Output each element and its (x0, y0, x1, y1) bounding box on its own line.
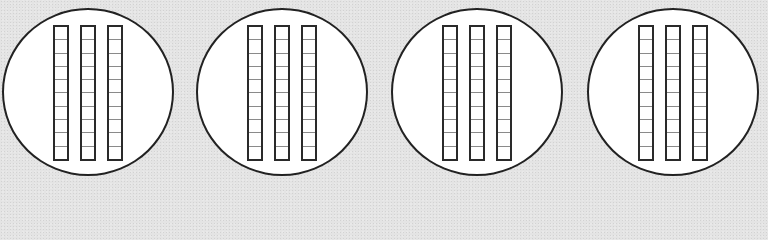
unit-cell (276, 40, 288, 53)
unit-cell (55, 40, 67, 53)
unit-cell (55, 54, 67, 67)
ten-rod (53, 25, 69, 161)
unit-cell (276, 147, 288, 159)
unit-cell (498, 93, 510, 106)
ten-rod (274, 25, 290, 161)
unit-cell (694, 54, 706, 67)
unit-cell (276, 120, 288, 133)
unit-cell (498, 40, 510, 53)
unit-cell (471, 67, 483, 80)
unit-cell (82, 93, 94, 106)
unit-cell (498, 107, 510, 120)
unit-cell (471, 133, 483, 146)
unit-cell (471, 120, 483, 133)
unit-cell (444, 40, 456, 53)
equal-groups-diagram: group 1group 2group 3group 4 (0, 0, 768, 186)
unit-cell (249, 107, 261, 120)
unit-cell (471, 147, 483, 159)
unit-cell (694, 67, 706, 80)
ten-rods-set (393, 25, 561, 161)
ten-rod (247, 25, 263, 161)
group-circle: group 2 (196, 8, 368, 176)
unit-cell (82, 80, 94, 93)
ten-rods-set (589, 25, 757, 161)
unit-cell (471, 40, 483, 53)
unit-cell (249, 133, 261, 146)
unit-cell (55, 67, 67, 80)
unit-cell (444, 133, 456, 146)
unit-cell (82, 107, 94, 120)
unit-cell (667, 40, 679, 53)
unit-cell (640, 133, 652, 146)
unit-cell (55, 120, 67, 133)
unit-cell (276, 67, 288, 80)
unit-cell (444, 27, 456, 40)
unit-cell (667, 67, 679, 80)
group-label: group 1 (4, 10, 5, 11)
unit-cell (444, 54, 456, 67)
group-label: group 3 (393, 10, 394, 11)
unit-cell (640, 120, 652, 133)
ten-rods-set (4, 25, 172, 161)
unit-cell (109, 27, 121, 40)
unit-cell (444, 147, 456, 159)
unit-cell (109, 40, 121, 53)
unit-cell (640, 27, 652, 40)
unit-cell (82, 147, 94, 159)
unit-cell (109, 54, 121, 67)
unit-cell (109, 93, 121, 106)
unit-cell (471, 80, 483, 93)
ten-rod (107, 25, 123, 161)
unit-cell (640, 80, 652, 93)
group-circle: group 3 (391, 8, 563, 176)
unit-cell (694, 120, 706, 133)
unit-cell (303, 133, 315, 146)
unit-cell (694, 27, 706, 40)
ten-rod (469, 25, 485, 161)
unit-cell (471, 54, 483, 67)
unit-cell (444, 93, 456, 106)
unit-cell (303, 80, 315, 93)
ten-rod (80, 25, 96, 161)
unit-cell (55, 80, 67, 93)
unit-cell (444, 120, 456, 133)
unit-cell (640, 93, 652, 106)
unit-cell (55, 93, 67, 106)
unit-cell (667, 133, 679, 146)
unit-cell (498, 133, 510, 146)
group-label: group 2 (198, 10, 199, 11)
ten-rod (301, 25, 317, 161)
ten-rod (692, 25, 708, 161)
unit-cell (276, 54, 288, 67)
unit-cell (303, 40, 315, 53)
unit-cell (303, 93, 315, 106)
group-circle: group 4 (587, 8, 759, 176)
unit-cell (667, 120, 679, 133)
unit-cell (471, 107, 483, 120)
unit-cell (249, 67, 261, 80)
ten-rod (665, 25, 681, 161)
unit-cell (444, 67, 456, 80)
unit-cell (694, 80, 706, 93)
group-circle: group 1 (2, 8, 174, 176)
unit-cell (109, 133, 121, 146)
unit-cell (82, 40, 94, 53)
unit-cell (667, 27, 679, 40)
unit-cell (55, 107, 67, 120)
unit-cell (498, 120, 510, 133)
unit-cell (82, 27, 94, 40)
unit-cell (109, 80, 121, 93)
unit-cell (276, 80, 288, 93)
unit-cell (694, 133, 706, 146)
ten-rod (638, 25, 654, 161)
unit-cell (498, 80, 510, 93)
unit-cell (109, 67, 121, 80)
unit-cell (303, 54, 315, 67)
ten-rod (496, 25, 512, 161)
unit-cell (640, 54, 652, 67)
unit-cell (276, 93, 288, 106)
unit-cell (276, 107, 288, 120)
unit-cell (82, 133, 94, 146)
unit-cell (249, 93, 261, 106)
unit-cell (303, 120, 315, 133)
